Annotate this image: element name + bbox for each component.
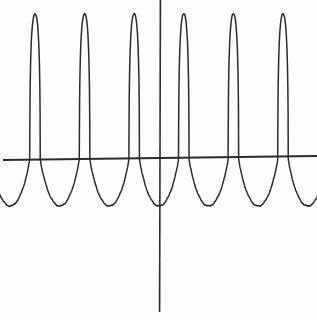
plot-figure — [0, 0, 317, 321]
plot-canvas — [0, 0, 317, 321]
